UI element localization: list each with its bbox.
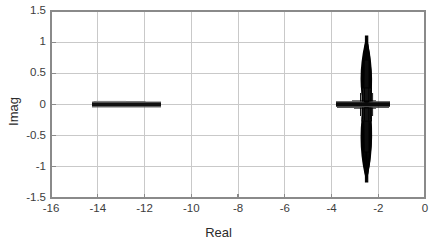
xtick-label--8: -8 — [233, 203, 243, 215]
xtick-label--2: -2 — [373, 203, 383, 215]
data-cluster-left-real-band — [92, 101, 161, 108]
ytick-label-1.5: 1.5 — [18, 5, 46, 17]
y-axis-label: Imag — [6, 77, 21, 147]
ytick-label--1: -1 — [18, 161, 46, 173]
ytick-label--0.5: -0.5 — [18, 130, 46, 142]
xtick-label--4: -4 — [326, 203, 336, 215]
xtick-label--14: -14 — [89, 203, 106, 215]
xtick-label--12: -12 — [136, 203, 153, 215]
ytick-label-1: 1 — [18, 36, 46, 48]
ytick-label-0: 0 — [18, 99, 46, 111]
x-axis-label: Real — [0, 225, 437, 240]
plot-canvas — [0, 0, 437, 242]
ytick-label-0.5: 0.5 — [18, 68, 46, 80]
xtick-label--10: -10 — [183, 203, 200, 215]
pole-zero-plot-figure: 1.5 1 0.5 0 -0.5 -1 -1.5 -16 -14 -12 -10… — [0, 0, 437, 242]
xtick-label-0: 0 — [422, 203, 428, 215]
xtick-label--6: -6 — [280, 203, 290, 215]
xtick-label--16: -16 — [43, 203, 60, 215]
